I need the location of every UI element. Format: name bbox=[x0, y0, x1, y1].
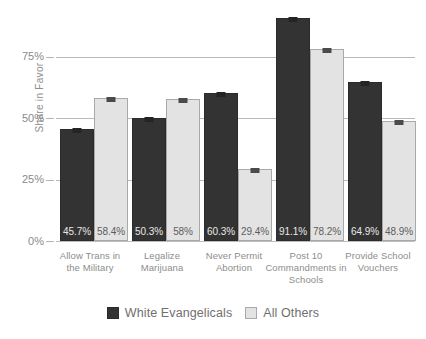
x-tick-line: Vouchers bbox=[338, 262, 418, 274]
error-bar-cap bbox=[179, 98, 188, 103]
x-tick-line: Post 10 bbox=[262, 250, 350, 262]
x-tick-line: Schools bbox=[262, 274, 350, 286]
bar-value-label: 64.9% bbox=[349, 226, 381, 237]
error-bar-cap bbox=[289, 17, 298, 22]
error-bar-cap bbox=[323, 48, 332, 53]
bar-all-others-never-permit-abortion[interactable]: 29.4% bbox=[238, 169, 272, 241]
bar-value-label: 58.4% bbox=[95, 226, 127, 237]
x-tick-line: Provide School bbox=[338, 250, 418, 262]
bar-value-label: 29.4% bbox=[239, 226, 271, 237]
y-tick-label-0: 0% bbox=[0, 235, 44, 247]
x-tick-label-post-10-commandments-in-schools: Post 10 Commandments in Schools bbox=[262, 250, 350, 286]
legend-label: White Evangelicals bbox=[125, 306, 232, 320]
bar-group-legalize-marijuana: 50.3% 58% bbox=[132, 8, 200, 241]
error-bar-cap bbox=[361, 81, 370, 86]
error-bar-cap bbox=[395, 120, 404, 125]
bar-value-label: 78.2% bbox=[311, 226, 343, 237]
bar-all-others-legalize-marijuana[interactable]: 58% bbox=[166, 99, 200, 241]
bar-group-post-10-commandments-in-schools: 91.1% 78.2% bbox=[276, 8, 344, 241]
y-axis-title: Share in Favor bbox=[34, 53, 45, 143]
bar-chart: Share in Favor 0% 25% 50% 75% 45.7% 58.4… bbox=[0, 0, 426, 339]
x-tick-line: Legalize bbox=[122, 250, 202, 262]
bar-value-label: 91.1% bbox=[277, 226, 309, 237]
y-tick-mark-0 bbox=[46, 241, 54, 242]
legend: White Evangelicals All Others bbox=[0, 306, 426, 320]
legend-swatch-icon bbox=[107, 307, 119, 319]
bar-all-others-provide-school-vouchers[interactable]: 48.9% bbox=[382, 121, 416, 241]
x-tick-line: Commandments in bbox=[262, 262, 350, 274]
bar-all-others-post-10-commandments-in-schools[interactable]: 78.2% bbox=[310, 49, 344, 241]
legend-swatch-icon bbox=[245, 307, 257, 319]
y-tick-mark-75 bbox=[46, 57, 54, 58]
legend-label: All Others bbox=[263, 306, 319, 320]
bar-value-label: 48.9% bbox=[383, 226, 415, 237]
bar-all-others-allow-trans-in-the-military[interactable]: 58.4% bbox=[94, 98, 128, 241]
x-tick-line: Marijuana bbox=[122, 262, 202, 274]
x-axis-line bbox=[56, 241, 415, 242]
bar-white-evangelicals-post-10-commandments-in-schools[interactable]: 91.1% bbox=[276, 18, 310, 241]
bar-value-label: 45.7% bbox=[61, 226, 93, 237]
legend-item-white-evangelicals[interactable]: White Evangelicals bbox=[107, 306, 232, 320]
bar-white-evangelicals-provide-school-vouchers[interactable]: 64.9% bbox=[348, 82, 382, 241]
bar-group-allow-trans-in-the-military: 45.7% 58.4% bbox=[60, 8, 128, 241]
error-bar-cap bbox=[107, 97, 116, 102]
plot-area: 45.7% 58.4% 50.3% 58% 60.3% bbox=[56, 8, 415, 241]
x-tick-label-allow-trans-in-the-military: Allow Trans in the Military bbox=[50, 250, 130, 274]
x-tick-label-provide-school-vouchers: Provide School Vouchers bbox=[338, 250, 418, 274]
y-tick-label-75: 75% bbox=[0, 50, 44, 62]
x-tick-line: Allow Trans in bbox=[50, 250, 130, 262]
y-tick-mark-50 bbox=[46, 118, 54, 119]
legend-item-all-others[interactable]: All Others bbox=[245, 306, 319, 320]
bar-white-evangelicals-legalize-marijuana[interactable]: 50.3% bbox=[132, 118, 166, 241]
y-tick-label-50: 50% bbox=[0, 112, 44, 124]
bar-value-label: 60.3% bbox=[205, 226, 237, 237]
bar-group-never-permit-abortion: 60.3% 29.4% bbox=[204, 8, 272, 241]
error-bar-cap bbox=[217, 92, 226, 97]
x-tick-line: the Military bbox=[50, 262, 130, 274]
y-tick-mark-25 bbox=[46, 180, 54, 181]
error-bar-cap bbox=[73, 128, 82, 133]
bar-white-evangelicals-allow-trans-in-the-military[interactable]: 45.7% bbox=[60, 129, 94, 241]
bar-value-label: 50.3% bbox=[133, 226, 165, 237]
x-tick-label-legalize-marijuana: Legalize Marijuana bbox=[122, 250, 202, 274]
y-tick-label-25: 25% bbox=[0, 173, 44, 185]
bar-value-label: 58% bbox=[167, 226, 199, 237]
error-bar-cap bbox=[145, 117, 154, 122]
error-bar-cap bbox=[251, 168, 260, 173]
bar-group-provide-school-vouchers: 64.9% 48.9% bbox=[348, 8, 416, 241]
bar-white-evangelicals-never-permit-abortion[interactable]: 60.3% bbox=[204, 93, 238, 241]
